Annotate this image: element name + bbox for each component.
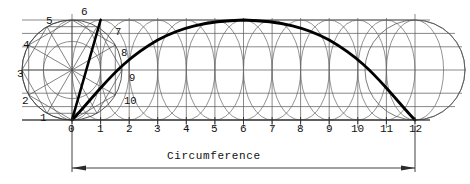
baseline-tick-label-7: 7: [269, 124, 276, 135]
circle-division-label-3: 3: [17, 69, 24, 80]
circle-division-label-9: 9: [129, 73, 135, 84]
baseline-tick-label-10: 10: [351, 124, 364, 135]
circle-division-label-10: 10: [124, 96, 137, 107]
circle-division-label-2: 2: [22, 96, 29, 107]
circle-division-label-6: 6: [81, 7, 88, 18]
circle-division-label-1: 1: [40, 113, 47, 124]
figure-canvas: 1 2 3 4 5 6 7 8 9 10 0 1 2 3 4 5 6 7 8 9…: [0, 0, 470, 184]
baseline-tick-label-12: 12: [409, 124, 422, 135]
baseline-tick-label-3: 3: [154, 124, 161, 135]
baseline-tick-label-4: 4: [183, 124, 190, 135]
baseline-tick-label-11: 11: [380, 124, 393, 135]
baseline-tick-label-8: 8: [297, 124, 304, 135]
baseline-tick-label-6: 6: [240, 124, 247, 135]
circle-division-label-4: 4: [23, 40, 30, 51]
baseline-tick-label-1: 1: [97, 124, 104, 135]
dimension-label-circumference: Circumference: [167, 150, 261, 162]
circle-division-label-7: 7: [115, 27, 121, 38]
circle-radial-spokes: [22, 20, 122, 120]
baseline-tick-label-0: 0: [68, 124, 75, 135]
circle-division-label-5: 5: [46, 16, 53, 27]
baseline-tick-label-2: 2: [126, 124, 133, 135]
baseline-tick-label-5: 5: [211, 124, 218, 135]
baseline-tick-label-9: 9: [326, 124, 333, 135]
circle-division-label-8: 8: [121, 48, 127, 59]
